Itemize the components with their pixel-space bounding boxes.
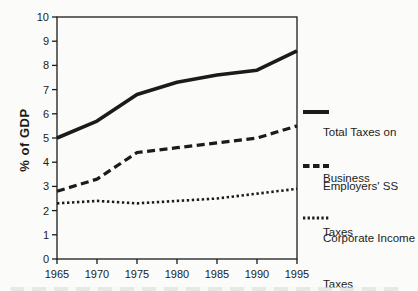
y-axis-title: % of GDP: [17, 93, 35, 187]
series-line-dashed: [57, 126, 297, 191]
y-tick-label: 10: [37, 11, 49, 23]
x-tick-label: 1985: [205, 268, 229, 280]
y-tick-label: 0: [43, 253, 49, 265]
y-tick-label: 1: [43, 229, 49, 241]
cropped-caption-edge: [10, 287, 400, 291]
x-tick-label: 1990: [245, 268, 269, 280]
legend-label-line: Employers' SS: [323, 180, 398, 192]
y-tick-label: 9: [43, 35, 49, 47]
x-tick-label: 1980: [165, 268, 189, 280]
y-tick-label: 7: [43, 84, 49, 96]
y-tick-label: 5: [43, 132, 49, 144]
y-tick-label: 2: [43, 205, 49, 217]
legend-label-line: Corporate Income: [323, 232, 415, 244]
legend-label: Corporate Income Taxes: [323, 227, 418, 291]
legend: Total Taxes on Business Employers' SS Ta…: [302, 0, 418, 291]
series-line-dotted: [57, 189, 297, 204]
y-tick-label: 8: [43, 59, 49, 71]
solid-line-swatch-icon: [302, 108, 330, 116]
x-tick-label: 1965: [45, 268, 69, 280]
dashed-line-swatch-icon: [302, 162, 330, 170]
series-line-solid: [57, 51, 297, 138]
x-tick-label: 1975: [125, 268, 149, 280]
y-tick-label: 3: [43, 180, 49, 192]
legend-entry-corporate-income-taxes: Corporate Income Taxes: [302, 214, 418, 291]
legend-label-line: Total Taxes on: [323, 126, 396, 138]
x-tick-label: 1970: [85, 268, 109, 280]
chart: 0123456789101965197019751980198519901995…: [0, 0, 418, 291]
y-tick-label: 6: [43, 108, 49, 120]
dotted-line-swatch-icon: [302, 214, 330, 222]
y-tick-label: 4: [43, 156, 49, 168]
